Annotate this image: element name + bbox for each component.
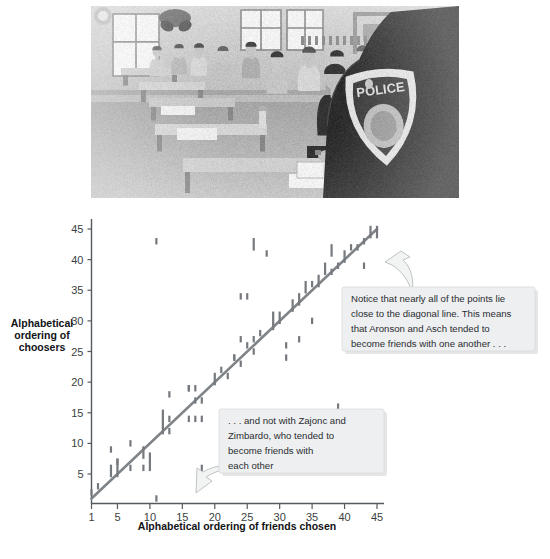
data-point <box>240 293 242 299</box>
data-point <box>272 318 274 324</box>
data-point <box>129 440 131 446</box>
callout-lower-line-3: become friends with <box>228 445 313 456</box>
data-point <box>285 354 287 360</box>
data-point <box>188 416 190 422</box>
callout-lower-line-1: . . . and not with Zajonc and <box>228 415 346 426</box>
data-point <box>279 318 281 324</box>
data-point <box>298 299 300 305</box>
data-point <box>311 318 313 324</box>
classroom-photo <box>91 6 459 198</box>
data-point <box>110 465 112 471</box>
data-point <box>116 471 118 477</box>
data-point <box>149 459 151 465</box>
callout-upper-line-1: Notice that nearly all of the points lie <box>351 293 505 304</box>
data-point <box>253 348 255 354</box>
data-point <box>168 428 170 434</box>
data-point <box>227 373 229 379</box>
data-point <box>305 287 307 293</box>
data-point <box>214 379 216 385</box>
data-point <box>376 232 378 238</box>
data-point <box>110 471 112 477</box>
y-tick-label: 5 <box>77 468 83 480</box>
data-point <box>142 465 144 471</box>
scatter-plot-figure: 51015202530354045 151015202530354045 Alp… <box>0 205 550 559</box>
y-tick-label: 40 <box>71 254 83 266</box>
data-point <box>324 263 326 269</box>
data-point <box>194 397 196 403</box>
data-point <box>201 397 203 403</box>
data-point <box>298 293 300 299</box>
y-axis-title: Alphabetical ordering of choosers <box>11 317 74 353</box>
y-axis-ticks: 51015202530354045 <box>71 223 91 480</box>
data-point <box>363 263 365 269</box>
callout-upper-line-2: close to the diagonal line. This means <box>351 308 512 319</box>
callout-lower-line-4: each other <box>228 460 274 471</box>
data-point <box>168 391 170 397</box>
x-tick-label: 45 <box>371 511 383 523</box>
y-tick-label: 20 <box>71 376 83 388</box>
data-point <box>279 312 281 318</box>
data-point <box>292 305 294 311</box>
x-axis-title: Alphabetical ordering of friends chosen <box>138 520 336 532</box>
x-tick-label: 40 <box>338 511 350 523</box>
data-point <box>129 465 131 471</box>
y-tick-label: 35 <box>71 284 83 296</box>
data-point <box>253 336 255 342</box>
data-point <box>324 269 326 275</box>
data-point <box>318 275 320 281</box>
data-point <box>162 428 164 434</box>
data-point <box>343 256 345 262</box>
data-point <box>110 446 112 452</box>
scatter-plot-svg: 51015202530354045 151015202530354045 Alp… <box>0 205 550 559</box>
data-point <box>201 465 203 471</box>
data-point <box>162 422 164 428</box>
data-point <box>259 330 261 336</box>
data-point <box>220 367 222 373</box>
classroom-photo-canvas <box>91 6 459 198</box>
data-point <box>116 465 118 471</box>
data-point <box>253 244 255 250</box>
data-point <box>97 483 99 489</box>
data-point <box>272 312 274 318</box>
y-axis-title-line-2: ordering of <box>14 329 70 341</box>
data-point <box>292 299 294 305</box>
data-point <box>201 416 203 422</box>
data-point <box>330 269 332 275</box>
data-point <box>272 324 274 330</box>
data-point <box>162 416 164 422</box>
data-point <box>162 410 164 416</box>
data-point <box>149 465 151 471</box>
callout-upper-line-4: become friends with one another . . . <box>351 338 506 349</box>
y-tick-label: 45 <box>71 223 83 235</box>
data-point <box>369 232 371 238</box>
data-point <box>369 226 371 232</box>
data-point <box>330 250 332 256</box>
data-point <box>246 293 248 299</box>
data-point <box>298 336 300 342</box>
x-tick-label: 5 <box>114 511 120 523</box>
data-point <box>311 281 313 287</box>
data-point <box>350 244 352 250</box>
data-point <box>266 250 268 256</box>
data-point <box>285 342 287 348</box>
data-point <box>253 238 255 244</box>
data-point <box>155 238 157 244</box>
y-axis-title-line-3: choosers <box>19 341 66 353</box>
data-point <box>240 361 242 367</box>
data-point <box>305 281 307 287</box>
data-point <box>356 244 358 250</box>
callout-lower: . . . and not with Zajonc and Zimbardo, … <box>219 409 387 476</box>
data-point <box>214 373 216 379</box>
data-point <box>337 263 339 269</box>
data-point <box>233 354 235 360</box>
data-point <box>194 416 196 422</box>
y-tick-label: 10 <box>71 437 83 449</box>
data-point <box>168 416 170 422</box>
y-tick-label: 15 <box>71 407 83 419</box>
data-point <box>330 244 332 250</box>
data-point <box>142 452 144 458</box>
data-point <box>90 489 92 495</box>
data-point <box>142 446 144 452</box>
data-point <box>155 495 157 501</box>
data-point <box>246 342 248 348</box>
